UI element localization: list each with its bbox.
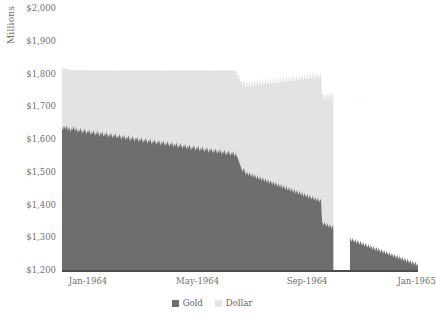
y-tick-label: $1,900 [10, 36, 56, 46]
area-series-dollar [350, 95, 380, 99]
chart-legend: GoldDollar [0, 299, 424, 308]
legend-label: Dollar [226, 299, 253, 308]
legend-label: Gold [183, 299, 203, 308]
y-tick-label: $1,500 [10, 167, 56, 177]
y-tick-label: $2,000 [10, 3, 56, 13]
y-tick-label: $1,400 [10, 200, 56, 210]
y-tick-label: $1,600 [10, 134, 56, 144]
x-tick-label: Sep-1964 [287, 276, 328, 286]
y-tick-label: $1,200 [10, 265, 56, 275]
x-tick-label: May-1964 [176, 276, 219, 286]
stacked-area-plot [62, 8, 418, 270]
legend-swatch-icon [215, 300, 222, 307]
area-chart-svg [62, 8, 418, 270]
x-axis-line [62, 270, 418, 272]
legend-item-gold[interactable]: Gold [172, 299, 203, 308]
plot-area [62, 8, 418, 270]
y-axis-tick-labels: $2,000$1,900$1,800$1,700$1,600$1,500$1,4… [2, 0, 56, 325]
legend-item-dollar[interactable]: Dollar [215, 299, 253, 308]
y-tick-label: $1,800 [10, 69, 56, 79]
y-tick-label: $1,300 [10, 232, 56, 242]
x-tick-label: Jan-1965 [397, 276, 435, 286]
x-tick-label: Jan-1964 [69, 276, 107, 286]
y-tick-label: $1,700 [10, 101, 56, 111]
legend-swatch-icon [172, 300, 179, 307]
area-series-gold [350, 237, 418, 270]
